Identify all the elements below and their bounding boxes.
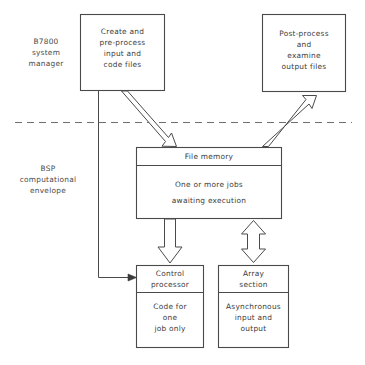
create-to-file-memory-arrow bbox=[122, 91, 177, 147]
array-section-box-outline[interactable] bbox=[219, 266, 289, 348]
file-memory-to-post-process-arrow bbox=[263, 96, 317, 147]
control-processor-box-outline[interactable] bbox=[137, 266, 204, 348]
side-label-bsp-envelope: BSP computational envelope bbox=[10, 163, 86, 196]
create-to-control-processor-arrow bbox=[99, 91, 137, 281]
file-memory-to-array-section-arrow bbox=[242, 221, 266, 263]
diagram-canvas: B7800 system manager BSP computational e… bbox=[0, 0, 365, 365]
file-memory-to-control-processor-arrow bbox=[158, 219, 182, 263]
side-label-system-manager: B7800 system manager bbox=[14, 36, 78, 69]
create-and-preprocess-box-outline[interactable] bbox=[81, 15, 165, 91]
file-memory-box-outline[interactable] bbox=[137, 148, 282, 219]
post-process-box-outline[interactable] bbox=[263, 15, 346, 92]
